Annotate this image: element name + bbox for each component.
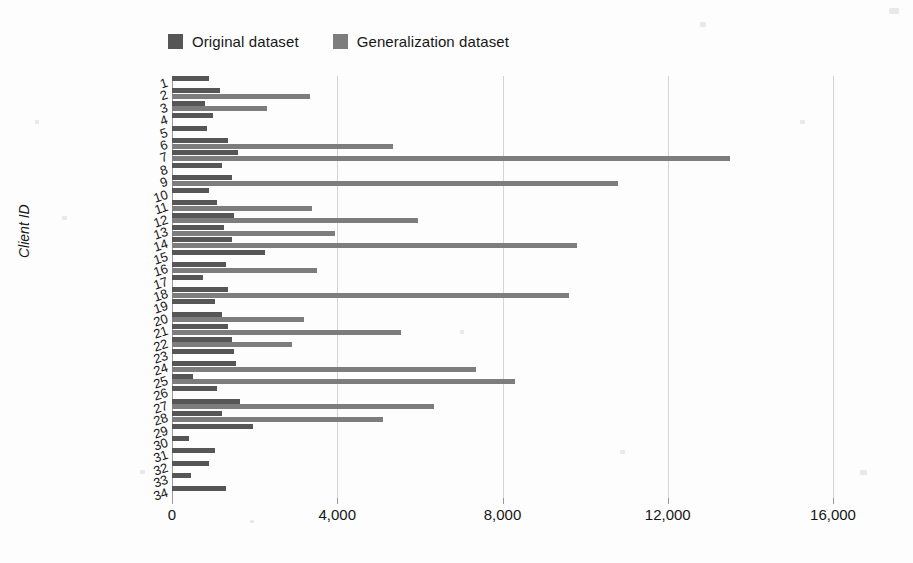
x-tick-mark-0	[172, 498, 173, 504]
bar-original-15	[172, 250, 265, 255]
bar-generalization-18	[172, 293, 569, 298]
bar-original-8	[172, 163, 222, 168]
bar-generalization-6	[172, 144, 393, 149]
legend-label-original: Original dataset	[192, 33, 299, 50]
bar-generalization-25	[172, 379, 515, 384]
bar-original-24	[172, 361, 236, 366]
bar-row: 29	[172, 424, 833, 436]
plot-area: 1234567891011121314151617181920212223242…	[172, 76, 833, 498]
bar-generalization-9	[172, 181, 618, 186]
scan-speckle	[140, 470, 145, 474]
bar-generalization-22	[172, 342, 292, 347]
x-tick-label-8000: 8,000	[484, 506, 522, 523]
scan-speckle	[620, 450, 625, 454]
bar-original-27	[172, 399, 240, 404]
bar-row: 5	[172, 126, 833, 138]
bar-row: 23	[172, 349, 833, 361]
bar-generalization-27	[172, 404, 434, 409]
bar-row: 34	[172, 486, 833, 498]
bar-row: 28	[172, 411, 833, 423]
bar-original-1	[172, 76, 209, 81]
bar-row: 13	[172, 225, 833, 237]
bar-row: 30	[172, 436, 833, 448]
bar-row: 24	[172, 361, 833, 373]
bar-original-18	[172, 287, 228, 292]
bar-original-26	[172, 386, 217, 391]
bar-original-19	[172, 299, 215, 304]
bar-original-2	[172, 88, 220, 93]
bar-generalization-20	[172, 317, 304, 322]
bar-row: 15	[172, 250, 833, 262]
bar-row: 3	[172, 101, 833, 113]
bar-row: 4	[172, 113, 833, 125]
x-tick-mark-8000	[503, 498, 504, 504]
bar-generalization-2	[172, 94, 310, 99]
legend-swatch-original	[168, 34, 183, 49]
bar-row: 25	[172, 374, 833, 386]
bar-original-12	[172, 213, 234, 218]
bar-original-34	[172, 486, 226, 491]
bar-original-7	[172, 150, 238, 155]
bar-generalization-3	[172, 106, 267, 111]
bar-original-20	[172, 312, 222, 317]
bar-original-33	[172, 473, 191, 478]
bar-generalization-28	[172, 417, 383, 422]
bar-original-9	[172, 175, 232, 180]
bar-row: 31	[172, 448, 833, 460]
bar-row: 22	[172, 337, 833, 349]
scan-speckle	[62, 216, 67, 220]
legend-label-generalization: Generalization dataset	[357, 33, 509, 50]
x-tick-mark-4000	[337, 498, 338, 504]
scan-speckle	[460, 330, 464, 334]
x-tick-mark-16000	[833, 498, 834, 504]
bar-generalization-24	[172, 367, 476, 372]
scan-speckle	[800, 120, 805, 124]
scan-speckle	[889, 8, 899, 14]
scan-speckle	[250, 520, 254, 523]
bar-generalization-21	[172, 330, 401, 335]
bar-generalization-12	[172, 218, 418, 223]
bar-row: 6	[172, 138, 833, 150]
scan-speckle	[35, 120, 39, 124]
bar-original-11	[172, 200, 217, 205]
bar-original-29	[172, 424, 253, 429]
bar-row: 2	[172, 88, 833, 100]
bar-row: 1	[172, 76, 833, 88]
bar-original-14	[172, 237, 232, 242]
bar-row: 14	[172, 237, 833, 249]
bar-original-10	[172, 188, 209, 193]
bar-row: 21	[172, 324, 833, 336]
bar-generalization-14	[172, 243, 577, 248]
bar-original-3	[172, 101, 205, 106]
legend-swatch-generalization	[333, 34, 348, 49]
bar-original-17	[172, 275, 203, 280]
x-tick-label-0: 0	[168, 506, 176, 523]
scan-speckle	[860, 470, 867, 475]
bar-original-6	[172, 138, 228, 143]
chart-screenshot: Original dataset Generalization dataset …	[0, 0, 913, 563]
bar-row: 11	[172, 200, 833, 212]
y-tick-label-34: 34	[152, 485, 174, 502]
bar-generalization-11	[172, 206, 312, 211]
legend-item-original: Original dataset	[168, 33, 299, 50]
bar-generalization-7	[172, 156, 730, 161]
bar-row: 19	[172, 299, 833, 311]
bar-row: 26	[172, 386, 833, 398]
bar-row: 8	[172, 163, 833, 175]
bar-generalization-16	[172, 268, 317, 273]
bar-original-5	[172, 126, 207, 131]
bar-row: 12	[172, 213, 833, 225]
bar-original-4	[172, 113, 213, 118]
scan-speckle	[700, 22, 706, 27]
bar-row: 7	[172, 150, 833, 162]
bar-original-23	[172, 349, 234, 354]
x-tick-label-4000: 4,000	[318, 506, 356, 523]
bar-original-31	[172, 448, 215, 453]
bar-row: 33	[172, 473, 833, 485]
bar-original-25	[172, 374, 193, 379]
bar-row: 17	[172, 275, 833, 287]
bar-row: 20	[172, 312, 833, 324]
bar-original-28	[172, 411, 222, 416]
bar-row: 18	[172, 287, 833, 299]
bar-original-21	[172, 324, 228, 329]
